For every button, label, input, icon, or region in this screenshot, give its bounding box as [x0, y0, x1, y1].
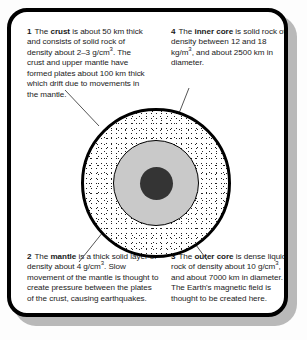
note-inner-core-before: The: [178, 27, 194, 36]
note-inner-core-number: 4: [171, 27, 175, 37]
note-inner-core: 4The inner core is solid rock of density…: [171, 27, 286, 69]
note-crust-before: The: [34, 27, 50, 36]
note-mantle-before: The: [34, 252, 50, 261]
note-mantle-number: 2: [27, 252, 31, 262]
earth-inner-core: [140, 167, 173, 200]
note-crust-term: crust: [50, 27, 70, 36]
note-crust-number: 1: [27, 27, 31, 37]
figure-card: 1The crust is about 50 km thick and cons…: [7, 8, 288, 317]
earth-crust-and-mantle: [81, 108, 231, 258]
note-crust: 1The crust is about 50 km thick and cons…: [27, 27, 149, 100]
leader-line-crust: [65, 90, 99, 126]
note-inner-core-term: inner core: [194, 27, 233, 36]
earth-outer-core: [113, 140, 199, 226]
earth-cross-section-diagram: [71, 94, 241, 270]
earth-structure-figure: 1The crust is about 50 km thick and cons…: [0, 0, 307, 340]
